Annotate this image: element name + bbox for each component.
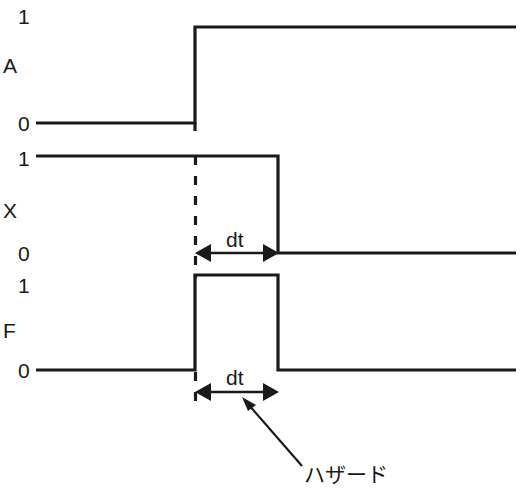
signal-a-waveform [36, 27, 516, 123]
hazard-leader-arrowhead [242, 397, 256, 411]
signal-a-low-label: 0 [18, 112, 30, 135]
signal-f-waveform [36, 275, 516, 370]
signal-f-low-label: 0 [18, 359, 30, 382]
hazard-leader-line [248, 404, 302, 466]
signal-f-high-label: 1 [18, 274, 30, 297]
dt-label-f: dt [226, 366, 244, 389]
dt-label-x: dt [226, 228, 244, 251]
signal-x-high-label: 1 [18, 147, 30, 170]
signal-x-waveform [36, 156, 516, 253]
dt-arrow-left-f [195, 383, 211, 401]
dt-arrow-left-x [195, 244, 211, 262]
timing-diagram-figure: 1 A 0 1 X 0 dt 1 F 0 dt ハザード [0, 0, 526, 498]
signal-x-low-label: 0 [18, 242, 30, 265]
hazard-label: ハザード [304, 463, 388, 487]
dt-arrow-right-f [263, 383, 279, 401]
signal-x-name: X [3, 199, 17, 222]
signal-a-high-label: 1 [18, 5, 30, 28]
timing-diagram-svg: 1 A 0 1 X 0 dt 1 F 0 dt ハザード [0, 0, 526, 498]
signal-f-name: F [3, 319, 16, 342]
signal-a-name: A [3, 54, 17, 77]
